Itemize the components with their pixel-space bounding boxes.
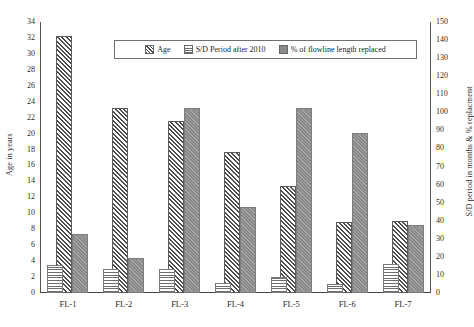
- bar-sd-period[interactable]: [215, 283, 231, 293]
- bar-group: [40, 22, 96, 293]
- y-tick-right: 110: [436, 90, 448, 98]
- y-tick-left: 14: [2, 177, 35, 185]
- legend-item[interactable]: S/D Period after 2010: [184, 45, 266, 54]
- y-tick-right: 60: [436, 181, 444, 189]
- bar-age[interactable]: [336, 222, 352, 293]
- bar-sd-period[interactable]: [47, 265, 63, 293]
- y-tick-right: 120: [436, 72, 448, 80]
- y-tick-right: 0: [436, 289, 440, 297]
- legend-label: Age: [157, 45, 170, 54]
- chart-legend: AgeS/D Period after 2010% of flowline le…: [114, 40, 417, 59]
- bar-sd-period[interactable]: [271, 277, 287, 293]
- y-tick-right: 130: [436, 54, 448, 62]
- y-tick-right: 100: [436, 108, 448, 116]
- y-tick-left: 8: [2, 225, 35, 233]
- y-tick-left: 22: [2, 114, 35, 122]
- y-tick-left: 32: [2, 34, 35, 42]
- x-tick-label: FL-4: [208, 299, 264, 309]
- y-tick-right: 150: [436, 18, 448, 26]
- y-tick-left: 4: [2, 257, 35, 265]
- y-tick-right: 40: [436, 217, 444, 225]
- bar-pct-replaced[interactable]: [184, 108, 200, 293]
- legend-label: % of flowline length replaced: [291, 45, 386, 54]
- bar-age[interactable]: [168, 121, 184, 293]
- y-tick-right: 70: [436, 163, 444, 171]
- bar-group: [375, 22, 431, 293]
- bar-age[interactable]: [112, 108, 128, 293]
- x-tick-label: FL-2: [96, 299, 152, 309]
- y-tick-right: 90: [436, 126, 444, 134]
- bar-pct-replaced[interactable]: [128, 258, 144, 293]
- bar-pct-replaced[interactable]: [408, 225, 424, 293]
- y-tick-right: 10: [436, 271, 444, 279]
- bar-pct-replaced[interactable]: [240, 207, 256, 293]
- y-tick-right: 50: [436, 199, 444, 207]
- y-tick-left: 30: [2, 50, 35, 58]
- y-tick-right: 30: [436, 235, 444, 243]
- x-tick-label: FL-1: [40, 299, 96, 309]
- plot-area: [40, 22, 431, 293]
- x-tick-label: FL-6: [319, 299, 375, 309]
- bar-group: [263, 22, 319, 293]
- y-tick-right: 20: [436, 253, 444, 261]
- y-axis-left-ticks: 3432302826242220181614121086420: [0, 0, 35, 327]
- y-tick-left: 34: [2, 18, 35, 26]
- y-axis-right-ticks: 1501401301201101009080706050403020100: [436, 0, 469, 327]
- x-tick-label: FL-5: [263, 299, 319, 309]
- bar-sd-period[interactable]: [327, 284, 343, 293]
- y-tick-left: 12: [2, 193, 35, 201]
- y-tick-left: 0: [2, 289, 35, 297]
- y-tick-left: 10: [2, 209, 35, 217]
- y-tick-left: 20: [2, 130, 35, 138]
- y-tick-left: 24: [2, 98, 35, 106]
- y-tick-left: 26: [2, 82, 35, 90]
- legend-swatch-sd-icon: [184, 45, 193, 54]
- bar-pct-replaced[interactable]: [72, 234, 88, 293]
- bar-sd-period[interactable]: [159, 269, 175, 293]
- bar-pct-replaced[interactable]: [296, 108, 312, 293]
- y-tick-left: 18: [2, 146, 35, 154]
- bar-age[interactable]: [56, 36, 72, 293]
- bar-group: [152, 22, 208, 293]
- legend-label: S/D Period after 2010: [196, 45, 266, 54]
- y-tick-left: 16: [2, 161, 35, 169]
- y-tick-left: 6: [2, 241, 35, 249]
- legend-item[interactable]: % of flowline length replaced: [279, 45, 386, 54]
- bar-pct-replaced[interactable]: [352, 133, 368, 293]
- y-tick-left: 2: [2, 273, 35, 281]
- y-tick-right: 80: [436, 144, 444, 152]
- y-tick-left: 28: [2, 66, 35, 74]
- legend-swatch-pct-icon: [279, 45, 288, 54]
- bar-group: [96, 22, 152, 293]
- bar-sd-period[interactable]: [103, 269, 119, 293]
- bar-sd-period[interactable]: [383, 264, 399, 293]
- bar-age[interactable]: [224, 152, 240, 293]
- y-tick-right: 140: [436, 36, 448, 44]
- bar-group: [208, 22, 264, 293]
- bar-group: [319, 22, 375, 293]
- legend-swatch-age-icon: [145, 45, 154, 54]
- x-tick-label: FL-7: [375, 299, 431, 309]
- x-tick-label: FL-3: [152, 299, 208, 309]
- legend-item[interactable]: Age: [145, 45, 170, 54]
